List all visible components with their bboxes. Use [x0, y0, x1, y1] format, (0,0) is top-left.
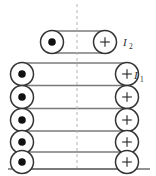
current-loops-diagram: I 2 I 1 [0, 0, 156, 176]
dot-icon [18, 158, 26, 166]
current-into-page-marker [94, 31, 117, 54]
figure-container: I 2 I 1 [0, 0, 156, 176]
dot-icon [18, 116, 26, 124]
current-label-upper: I [122, 36, 128, 48]
current-into-page-marker [116, 109, 139, 132]
current-label-upper-subscript: 2 [129, 42, 133, 51]
current-out-of-page-marker [11, 151, 34, 174]
dot-icon [18, 93, 26, 101]
dot-icon [48, 38, 56, 46]
current-out-of-page-marker [41, 31, 64, 54]
dot-icon [18, 138, 26, 146]
dot-icon [18, 70, 26, 78]
current-label-lower-subscript: 1 [140, 75, 144, 84]
current-out-of-page-marker [11, 86, 34, 109]
current-into-page-marker [116, 151, 139, 174]
current-out-of-page-marker [11, 63, 34, 86]
current-out-of-page-marker [11, 109, 34, 132]
current-into-page-marker [116, 86, 139, 109]
